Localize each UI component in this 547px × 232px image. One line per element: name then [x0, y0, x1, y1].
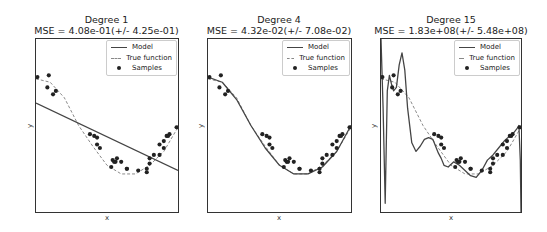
- dot-marker-icon: [287, 64, 303, 72]
- sample-point: [51, 92, 55, 96]
- sample-point: [309, 168, 313, 172]
- sample-point: [98, 146, 102, 150]
- sample-point: [399, 89, 403, 93]
- subplot-subtitle: MSE = 4.08e-01(+/- 4.25e-01): [15, 25, 198, 36]
- sample-point: [219, 73, 223, 77]
- sample-point: [88, 132, 92, 136]
- sample-point: [330, 142, 334, 146]
- sample-point: [267, 142, 271, 146]
- sample-point: [217, 85, 221, 89]
- model-line: [36, 103, 178, 170]
- subplot-degree-15: Degree 15 MSE = 1.83e+08(+/- 5.48e+08) M…: [365, 0, 537, 232]
- sample-point: [469, 167, 473, 171]
- dot-marker-icon: [111, 64, 127, 72]
- legend-item-samples: Samples: [459, 63, 515, 74]
- dashed-line-icon: [287, 54, 294, 62]
- legend: Model True function Samples: [106, 40, 177, 76]
- sample-point: [287, 156, 291, 160]
- sample-point: [491, 161, 495, 165]
- sample-point: [480, 168, 484, 172]
- y-axis-label: y: [197, 124, 205, 128]
- legend-item-true-function: True function: [287, 53, 345, 64]
- sample-point: [297, 167, 301, 171]
- sample-point: [390, 85, 394, 89]
- sample-point: [505, 139, 509, 143]
- sample-point: [145, 170, 149, 174]
- plot-area: Model True function Samples: [207, 38, 352, 213]
- sample-point: [320, 161, 324, 165]
- sample-point: [453, 165, 457, 169]
- sample-point: [54, 89, 58, 93]
- subplot-degree-1: Degree 1 MSE = 4.08e-01(+/- 4.25e-01) Mo…: [15, 0, 198, 232]
- sample-point: [157, 153, 161, 157]
- sample-point: [501, 142, 505, 146]
- sample-point: [335, 139, 339, 143]
- sample-point: [505, 146, 509, 150]
- sample-point: [109, 165, 113, 169]
- legend-item-true-function: True function: [459, 53, 515, 64]
- y-axis-label: y: [26, 124, 34, 128]
- sample-point: [157, 142, 161, 146]
- sample-point: [223, 92, 227, 96]
- sample-point: [162, 139, 166, 143]
- legend-item-model: Model: [287, 42, 345, 53]
- sample-point: [167, 132, 171, 136]
- subplot-subtitle: MSE = 4.32e-02(+/- 7.08e-02): [190, 25, 368, 36]
- sample-point: [330, 153, 334, 157]
- sample-point: [292, 160, 296, 164]
- sample-point: [119, 160, 123, 164]
- sample-point: [463, 160, 467, 164]
- sample-point: [459, 156, 463, 160]
- dot-marker-icon: [459, 64, 475, 72]
- sample-point: [148, 161, 152, 165]
- sample-point: [226, 89, 230, 93]
- sample-point: [175, 125, 178, 129]
- sample-point: [495, 153, 499, 157]
- legend: Model True function Samples: [454, 40, 520, 76]
- solid-line-icon: [459, 43, 475, 51]
- sample-point: [270, 146, 274, 150]
- sample-point: [136, 168, 140, 172]
- sample-point: [260, 132, 264, 136]
- legend-item-true-function: True function: [111, 53, 172, 64]
- sample-point: [439, 136, 443, 140]
- y-axis-label: y: [370, 124, 378, 128]
- legend-item-samples: Samples: [111, 63, 172, 74]
- sample-point: [95, 136, 99, 140]
- solid-line-icon: [111, 43, 127, 51]
- sample-point: [162, 146, 166, 150]
- subplot-degree-4: Degree 4 MSE = 4.32e-02(+/- 7.08e-02) Mo…: [190, 0, 368, 232]
- dashed-line-icon: [459, 54, 464, 62]
- sample-point: [47, 73, 51, 77]
- sample-point: [488, 170, 492, 174]
- dashed-line-icon: [111, 54, 121, 62]
- legend: Model True function Samples: [282, 40, 350, 76]
- sample-point: [340, 132, 344, 136]
- legend-item-model: Model: [459, 42, 515, 53]
- sample-point: [282, 165, 286, 169]
- legend-item-samples: Samples: [287, 63, 345, 74]
- sample-point: [320, 156, 324, 160]
- sample-point: [95, 142, 99, 146]
- sample-point: [325, 153, 329, 157]
- sample-point: [501, 153, 505, 157]
- sample-point: [491, 156, 495, 160]
- sample-point: [392, 73, 396, 77]
- subplot-subtitle: MSE = 1.83e+08(+/- 5.48e+08): [365, 25, 537, 36]
- sample-point: [381, 75, 384, 79]
- solid-line-icon: [287, 43, 303, 51]
- sample-point: [335, 146, 339, 150]
- subplot-title: Degree 15: [365, 14, 537, 25]
- sample-point: [439, 142, 443, 146]
- true-function-line: [381, 79, 521, 174]
- plot-area: Model True function Samples: [380, 38, 522, 213]
- sample-point: [347, 125, 351, 129]
- sample-point: [148, 156, 152, 160]
- x-axis-label: x: [97, 214, 117, 222]
- sample-point: [36, 75, 39, 79]
- sample-point: [267, 136, 271, 140]
- sample-point: [45, 85, 49, 89]
- x-axis-label: x: [441, 214, 461, 222]
- sample-point: [511, 132, 515, 136]
- subplot-title: Degree 4: [190, 14, 368, 25]
